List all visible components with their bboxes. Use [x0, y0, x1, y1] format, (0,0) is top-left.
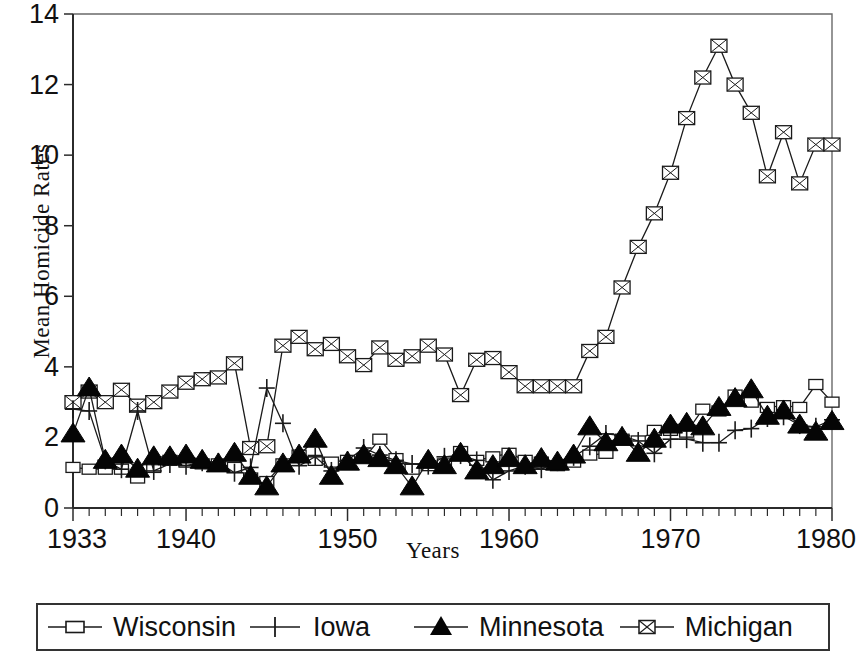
homicide-rates-line-chart: 02468101214193319401950196019701980 Mean… [0, 0, 866, 585]
legend-label-iowa: Iowa [304, 612, 374, 643]
legend-label-michigan: Michigan [676, 612, 797, 643]
legend-item-michigan[interactable]: Michigan [618, 605, 797, 649]
y-tick-label: 0 [44, 493, 59, 523]
plus-marker-icon [246, 613, 304, 641]
series-michigan [65, 39, 840, 454]
chart-screenshot: 02468101214193319401950196019701980 Mean… [0, 0, 866, 660]
legend-item-wisconsin[interactable]: Wisconsin [46, 605, 240, 649]
series-layer [61, 39, 844, 495]
legend-item-minnesota[interactable]: Minnesota [412, 605, 608, 649]
axes-layer [64, 14, 832, 521]
legend-label-wisconsin: Wisconsin [104, 612, 240, 643]
chart-legend: Wisconsin Iowa Minnesota Michigan [36, 603, 830, 651]
plot-canvas: 02468101214193319401950196019701980 [0, 0, 866, 585]
filled-triangle-marker-icon [412, 613, 470, 641]
legend-item-iowa[interactable]: Iowa [246, 605, 374, 649]
x-axis-title: Years [0, 538, 866, 564]
open-square-marker-icon [46, 613, 104, 641]
y-tick-label: 2 [44, 422, 59, 452]
y-axis-title: Mean Homicide Rates [29, 121, 55, 381]
y-tick-label: 14 [29, 0, 59, 29]
legend-label-minnesota: Minnesota [470, 612, 608, 643]
y-tick-label: 12 [29, 70, 59, 100]
crossed-square-marker-icon [618, 613, 676, 641]
